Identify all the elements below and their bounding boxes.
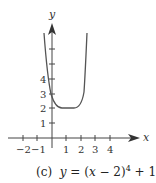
figure-caption: (c) y = (x − 2)4 + 1 [36, 164, 154, 179]
graph: x y −2 −1 1 2 3 4 1 2 3 4 [0, 0, 156, 165]
svg-text:−1: −1 [31, 144, 46, 155]
svg-text:4: 4 [40, 74, 46, 85]
svg-text:−2: −2 [16, 144, 31, 155]
caption-tail: + 1 [131, 165, 156, 179]
svg-text:1: 1 [63, 144, 69, 155]
caption-lhs: y [60, 165, 67, 179]
svg-text:2: 2 [40, 103, 46, 114]
curve-line [44, 33, 87, 108]
svg-text:2: 2 [78, 144, 84, 155]
y-tick-labels: 1 2 3 4 [40, 74, 46, 129]
svg-text:3: 3 [40, 89, 46, 100]
x-axis-label: x [143, 131, 150, 144]
caption-x: x [89, 165, 96, 179]
caption-mid: − 2) [96, 165, 126, 179]
y-axis-label: y [48, 8, 56, 21]
x-tick-labels: −2 −1 1 2 3 4 [16, 144, 113, 155]
svg-text:1: 1 [40, 118, 46, 129]
caption-eq: = ( [67, 165, 89, 179]
svg-text:3: 3 [92, 144, 98, 155]
svg-text:4: 4 [107, 144, 113, 155]
caption-label: (c) [36, 165, 52, 179]
